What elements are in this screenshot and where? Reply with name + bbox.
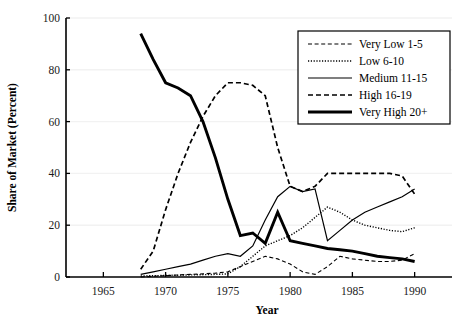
x-axis-title: Year	[256, 304, 279, 316]
legend-label-very-high-20: Very High 20+	[359, 106, 427, 119]
x-tick-label-1985: 1985	[341, 285, 364, 297]
y-tick-label-40: 40	[49, 167, 61, 179]
y-tick-label-80: 80	[49, 64, 61, 76]
legend-label-high-16-19: High 16-19	[359, 89, 412, 102]
legend-label-medium-11-15: Medium 11-15	[359, 72, 427, 84]
chart-figure: 020406080100196519701975198019851990Year…	[0, 0, 462, 323]
x-tick-label-1970: 1970	[154, 285, 177, 297]
x-tick-label-1965: 1965	[92, 285, 115, 297]
line-chart-svg: 020406080100196519701975198019851990Year…	[0, 0, 462, 323]
y-axis-title: Share of Market (Percent)	[6, 83, 19, 212]
y-tick-label-100: 100	[43, 12, 61, 24]
x-tick-label-1980: 1980	[279, 285, 302, 297]
y-tick-label-20: 20	[49, 219, 61, 231]
x-tick-label-1975: 1975	[216, 285, 239, 297]
legend-label-low-6-10: Low 6-10	[359, 55, 404, 67]
x-tick-label-1990: 1990	[403, 285, 426, 297]
legend-label-very-low-1-5: Very Low 1-5	[359, 38, 423, 51]
y-tick-label-0: 0	[54, 271, 60, 283]
y-tick-label-60: 60	[49, 116, 61, 128]
